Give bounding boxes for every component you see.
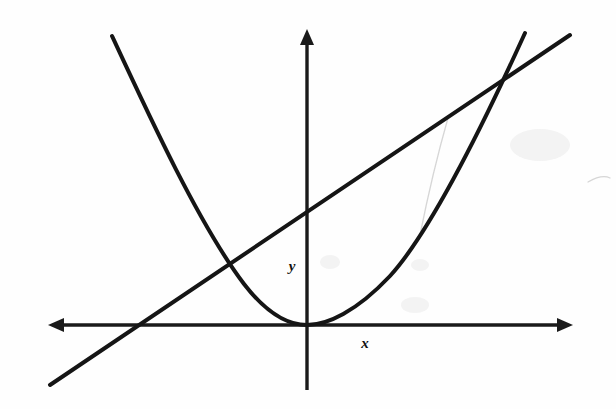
x-axis-label: x <box>360 335 369 351</box>
figure-root: y x <box>0 0 616 409</box>
y-axis-label: y <box>287 258 296 274</box>
graph-canvas: y x <box>0 0 616 409</box>
